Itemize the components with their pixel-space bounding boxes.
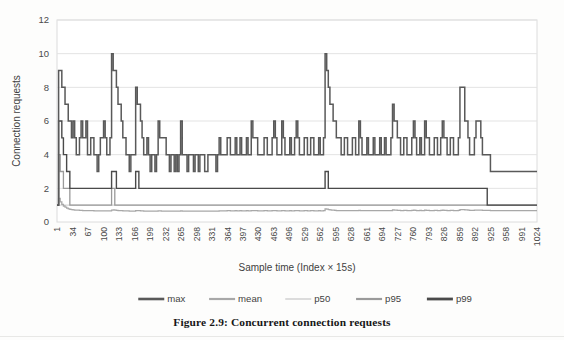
- x-axis-label: Sample time (Index × 15s): [239, 262, 356, 273]
- connection-requests-chart: 024681012 134671001331661992322652983313…: [0, 0, 564, 316]
- legend-label-p95: p95: [385, 293, 401, 304]
- figure-container: 024681012 134671001331661992322652983313…: [0, 0, 564, 340]
- x-tick-label-34: 34: [68, 227, 78, 237]
- x-tick-label-859: 859: [455, 227, 465, 242]
- y-axis-label: Connection requests: [11, 75, 22, 167]
- x-tick-label-133: 133: [114, 227, 124, 242]
- x-tick-label-463: 463: [269, 227, 279, 242]
- x-tick-label-265: 265: [176, 227, 186, 242]
- x-tick-label-364: 364: [223, 227, 233, 242]
- x-tick-label-331: 331: [207, 227, 217, 242]
- figure-caption: Figure 2.9: Concurrent connection reques…: [0, 316, 564, 328]
- y-tick-label-2: 2: [44, 183, 49, 194]
- x-tick-label-67: 67: [83, 227, 93, 237]
- scan-artifact-line: [0, 336, 564, 337]
- x-tick-label-100: 100: [99, 227, 109, 242]
- x-tick-label-1: 1: [52, 227, 62, 232]
- x-tick-label-298: 298: [192, 227, 202, 242]
- x-tick-label-925: 925: [486, 227, 496, 242]
- y-tick-label-12: 12: [38, 14, 49, 25]
- x-tick-label-760: 760: [408, 227, 418, 242]
- x-tick-label-397: 397: [238, 227, 248, 242]
- legend-label-mean: mean: [238, 293, 262, 304]
- x-tick-label-430: 430: [253, 227, 263, 242]
- legend-label-p50: p50: [314, 293, 330, 304]
- x-tick-label-958: 958: [501, 227, 511, 242]
- x-tick-label-529: 529: [300, 227, 310, 242]
- x-tick-label-166: 166: [130, 227, 140, 242]
- x-tick-label-496: 496: [284, 227, 294, 242]
- x-tick-label-661: 661: [362, 227, 372, 242]
- y-axis-title: Connection requests: [11, 75, 22, 167]
- y-tick-label-10: 10: [38, 48, 49, 59]
- x-axis-ticks: 1346710013316619923226529833136439743046…: [52, 227, 542, 246]
- x-tick-label-199: 199: [145, 227, 155, 242]
- x-tick-label-991: 991: [517, 227, 527, 242]
- x-tick-label-793: 793: [424, 227, 434, 242]
- y-axis-ticks: 024681012: [38, 14, 49, 227]
- x-tick-label-694: 694: [377, 227, 387, 242]
- x-tick-label-892: 892: [470, 227, 480, 242]
- chart-legend: maxmeanp50p95p99: [138, 293, 472, 304]
- x-tick-label-1024: 1024: [532, 227, 542, 246]
- x-tick-label-562: 562: [315, 227, 325, 242]
- legend-label-max: max: [167, 293, 185, 304]
- x-tick-label-232: 232: [161, 227, 171, 242]
- legend-label-p99: p99: [456, 293, 472, 304]
- x-axis-title: Sample time (Index × 15s): [239, 262, 356, 273]
- x-tick-label-727: 727: [393, 227, 403, 242]
- y-tick-label-4: 4: [44, 149, 49, 160]
- y-tick-label-0: 0: [44, 216, 49, 227]
- x-tick-label-628: 628: [346, 227, 356, 242]
- x-tick-label-826: 826: [439, 227, 449, 242]
- x-tick-label-595: 595: [331, 227, 341, 242]
- y-tick-label-8: 8: [44, 82, 49, 93]
- y-tick-label-6: 6: [44, 115, 49, 126]
